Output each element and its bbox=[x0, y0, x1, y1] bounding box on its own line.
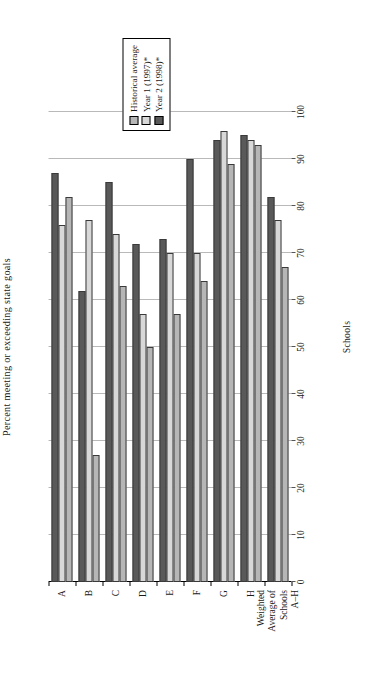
category-label-f: F bbox=[191, 590, 203, 670]
category-label-d: D bbox=[137, 590, 149, 670]
bar-e-series-3 bbox=[159, 239, 166, 582]
category-label-weighted-average-of-schools-a–h: WeightedAverage ofSchoolsA–H bbox=[255, 590, 301, 670]
value-tick-label: 40 bbox=[295, 381, 305, 407]
legend-swatch-icon bbox=[129, 116, 138, 125]
legend-label: Year 1 (1997)* bbox=[140, 57, 153, 112]
bar-b-series-2 bbox=[85, 220, 92, 582]
bar-d-series-2 bbox=[139, 314, 146, 582]
value-tick-label: 20 bbox=[295, 475, 305, 501]
category-label-line: F bbox=[191, 590, 203, 670]
bar-weighted-average-of-schools-a–h-series-1 bbox=[281, 267, 288, 582]
value-tick bbox=[291, 252, 295, 253]
category-tick bbox=[156, 582, 157, 586]
category-axis-title: Schools bbox=[340, 0, 351, 674]
category-tick bbox=[210, 582, 211, 586]
bar-a-series-2 bbox=[58, 225, 65, 582]
category-label-line: B bbox=[83, 590, 95, 670]
category-label-line: D bbox=[137, 590, 149, 670]
value-tick bbox=[291, 205, 295, 206]
plot-area bbox=[48, 112, 291, 582]
value-tick-label: 90 bbox=[295, 146, 305, 172]
category-label-c: C bbox=[110, 590, 122, 670]
category-label-line: C bbox=[110, 590, 122, 670]
category-label-line: Schools bbox=[278, 590, 290, 670]
category-label-a: A bbox=[56, 590, 68, 670]
value-tick-label: 70 bbox=[295, 240, 305, 266]
value-tick bbox=[291, 534, 295, 535]
category-label-b: B bbox=[83, 590, 95, 670]
category-label-line: Average of bbox=[266, 590, 278, 670]
bar-a-series-3 bbox=[51, 173, 58, 582]
bar-e-series-1 bbox=[173, 314, 180, 582]
category-tick bbox=[291, 582, 292, 586]
category-tick bbox=[75, 582, 76, 586]
plot-inner bbox=[48, 112, 291, 582]
value-tick-label: 80 bbox=[295, 193, 305, 219]
category-tick bbox=[264, 582, 265, 586]
value-tick bbox=[291, 299, 295, 300]
bar-a-series-1 bbox=[65, 197, 72, 582]
value-tick bbox=[291, 487, 295, 488]
category-label-line: Weighted bbox=[255, 590, 267, 670]
value-axis-title: Percent meeting or exceeding state goals bbox=[0, 112, 11, 582]
legend-swatch-icon bbox=[154, 116, 163, 125]
bar-chart-figure: Percent meeting or exceeding state goals… bbox=[0, 0, 383, 674]
category-tick bbox=[237, 582, 238, 586]
bar-h-series-2 bbox=[247, 140, 254, 582]
value-tick-label: 60 bbox=[295, 287, 305, 313]
category-label-line: A–H bbox=[289, 590, 301, 670]
bar-f-series-3 bbox=[186, 159, 193, 582]
legend-item-3: Year 2 (1998)* bbox=[152, 45, 165, 125]
value-tick bbox=[291, 111, 295, 112]
bar-weighted-average-of-schools-a–h-series-2 bbox=[274, 220, 281, 582]
legend-label: Year 2 (1998)* bbox=[152, 57, 165, 112]
bar-c-series-3 bbox=[105, 183, 112, 583]
bar-c-series-2 bbox=[112, 234, 119, 582]
bar-h-series-1 bbox=[254, 145, 261, 582]
category-tick bbox=[102, 582, 103, 586]
value-tick-label: 30 bbox=[295, 428, 305, 454]
bar-f-series-2 bbox=[193, 253, 200, 582]
category-label-line: A bbox=[56, 590, 68, 670]
bar-e-series-2 bbox=[166, 253, 173, 582]
value-tick bbox=[291, 393, 295, 394]
legend-swatch-icon bbox=[141, 116, 150, 125]
value-tick bbox=[291, 158, 295, 159]
category-tick bbox=[183, 582, 184, 586]
bar-b-series-3 bbox=[78, 291, 85, 582]
value-tick-label: 50 bbox=[295, 334, 305, 360]
value-tick-label: 100 bbox=[295, 99, 305, 125]
bar-d-series-3 bbox=[132, 244, 139, 582]
category-tick bbox=[48, 582, 49, 586]
category-label-e: E bbox=[164, 590, 176, 670]
chart-rotation-wrapper: Percent meeting or exceeding state goals… bbox=[0, 0, 383, 674]
bar-g-series-1 bbox=[227, 164, 234, 582]
legend-item-1: Historical average bbox=[127, 45, 140, 125]
bar-weighted-average-of-schools-a–h-series-3 bbox=[267, 197, 274, 582]
category-label-line: G bbox=[218, 590, 230, 670]
category-label-line: E bbox=[164, 590, 176, 670]
legend-item-2: Year 1 (1997)* bbox=[140, 45, 153, 125]
bar-f-series-1 bbox=[200, 281, 207, 582]
category-tick bbox=[129, 582, 130, 586]
bar-g-series-3 bbox=[213, 140, 220, 582]
legend-label: Historical average bbox=[127, 45, 140, 112]
bar-c-series-1 bbox=[119, 286, 126, 582]
bar-b-series-1 bbox=[92, 455, 99, 582]
bar-d-series-1 bbox=[146, 347, 153, 582]
bar-h-series-3 bbox=[240, 136, 247, 583]
value-tick bbox=[291, 440, 295, 441]
category-label-g: G bbox=[218, 590, 230, 670]
value-tick bbox=[291, 346, 295, 347]
chart-legend: Historical averageYear 1 (1997)*Year 2 (… bbox=[122, 38, 170, 131]
value-tick-label: 10 bbox=[295, 522, 305, 548]
bar-g-series-2 bbox=[220, 131, 227, 582]
